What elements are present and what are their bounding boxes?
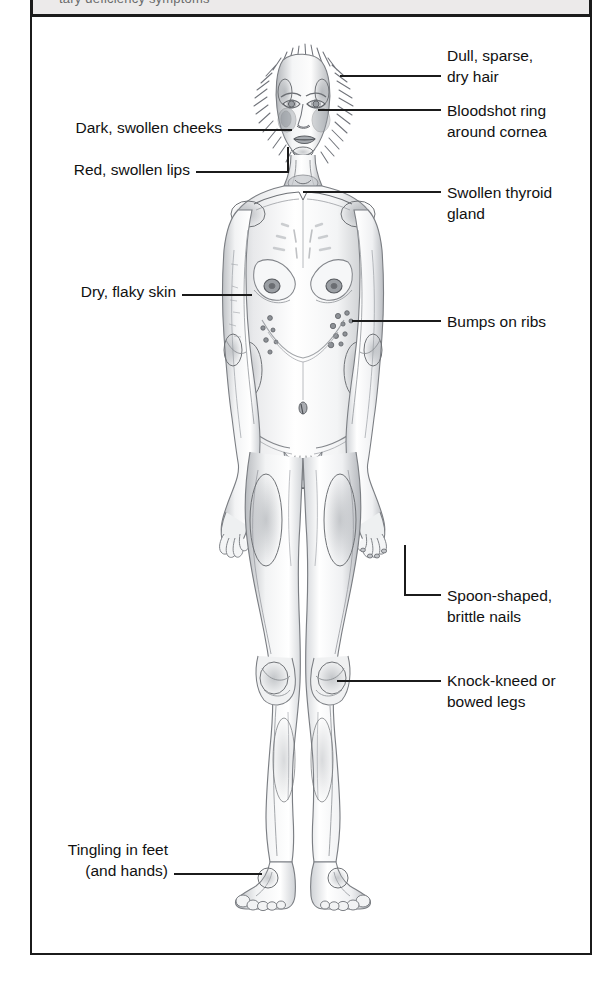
callout-label-dark-swollen-cheeks: Dark, swollen cheeks xyxy=(76,117,222,138)
figure-page: tary deficiency symptoms xyxy=(0,0,613,987)
illustration-frame xyxy=(30,17,592,955)
callout-label-spoon-shaped-brittle-nails: Spoon-shaped, brittle nails xyxy=(447,585,552,627)
truncated-title-text: tary deficiency symptoms xyxy=(59,0,210,6)
callout-label-dull-sparse-dry-hair: Dull, sparse, dry hair xyxy=(447,45,533,87)
callout-label-red-swollen-lips: Red, swollen lips xyxy=(74,159,190,180)
truncated-title-band: tary deficiency symptoms xyxy=(30,0,592,14)
callout-label-dry-flaky-skin: Dry, flaky skin xyxy=(81,281,176,302)
callout-label-knock-kneed-or-bowed-legs: Knock-kneed or bowed legs xyxy=(447,670,556,712)
callout-label-swollen-thyroid-gland: Swollen thyroid gland xyxy=(447,182,552,224)
callout-label-bloodshot-ring-cornea: Bloodshot ring around cornea xyxy=(447,100,547,142)
callout-label-bumps-on-ribs: Bumps on ribs xyxy=(447,311,546,332)
callout-label-tingling-in-feet: Tingling in feet (and hands) xyxy=(68,839,168,881)
